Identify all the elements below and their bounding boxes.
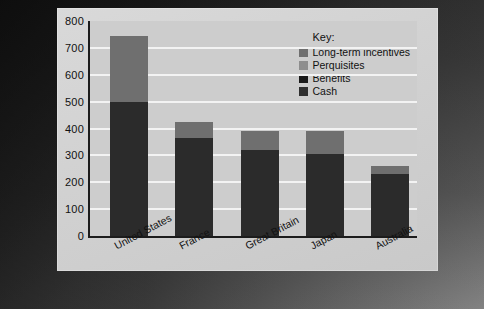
y-axis-tick-label: 100: [65, 203, 84, 215]
y-axis-tick-label: 600: [65, 69, 84, 81]
plot-area: Key: Long-term incentivesPerquisitesBene…: [88, 21, 417, 238]
bar-segment-long-term-incentives: [110, 36, 148, 102]
screenshot-root: Key: Long-term incentivesPerquisitesBene…: [0, 0, 502, 325]
legend-entries: Long-term incentivesPerquisitesBenefitsC…: [299, 46, 410, 98]
legend-swatch-icon: [299, 61, 308, 70]
bar-segment-long-term-incentives: [371, 166, 409, 174]
legend-swatch-icon: [299, 87, 308, 96]
bar-great-britain[interactable]: [241, 131, 279, 236]
chart-legend: Key: Long-term incentivesPerquisitesBene…: [299, 31, 410, 98]
legend-swatch-icon: [299, 48, 308, 57]
legend-label: Perquisites: [313, 59, 365, 72]
y-axis-tick-label: 500: [65, 96, 84, 108]
bar-segment-cash: [306, 154, 344, 236]
y-axis-tick-label: 0: [78, 230, 84, 242]
bar-japan[interactable]: [306, 131, 344, 236]
bar-segment-cash: [110, 102, 148, 236]
chart-card: Key: Long-term incentivesPerquisitesBene…: [57, 8, 438, 271]
legend-entry[interactable]: Cash: [299, 85, 410, 98]
page-margin-right: [484, 0, 502, 325]
y-axis-tick-label: 400: [65, 123, 84, 135]
bar-segment-long-term-incentives: [175, 122, 213, 138]
bar-segment-long-term-incentives: [241, 131, 279, 150]
legend-label: Cash: [313, 85, 338, 98]
bar-segment-long-term-incentives: [306, 131, 344, 154]
legend-entry[interactable]: Perquisites: [299, 59, 410, 72]
bar-segment-cash: [241, 150, 279, 236]
bar-segment-cash: [175, 138, 213, 236]
page-margin-bottom: [0, 309, 502, 325]
y-axis-tick-label: 700: [65, 42, 84, 54]
bar-france[interactable]: [175, 122, 213, 236]
y-axis-tick-label: 300: [65, 149, 84, 161]
bar-united-states[interactable]: [110, 36, 148, 236]
y-axis-tick-label: 800: [65, 15, 84, 27]
y-axis-tick-label: 200: [65, 176, 84, 188]
legend-title: Key:: [313, 31, 410, 44]
